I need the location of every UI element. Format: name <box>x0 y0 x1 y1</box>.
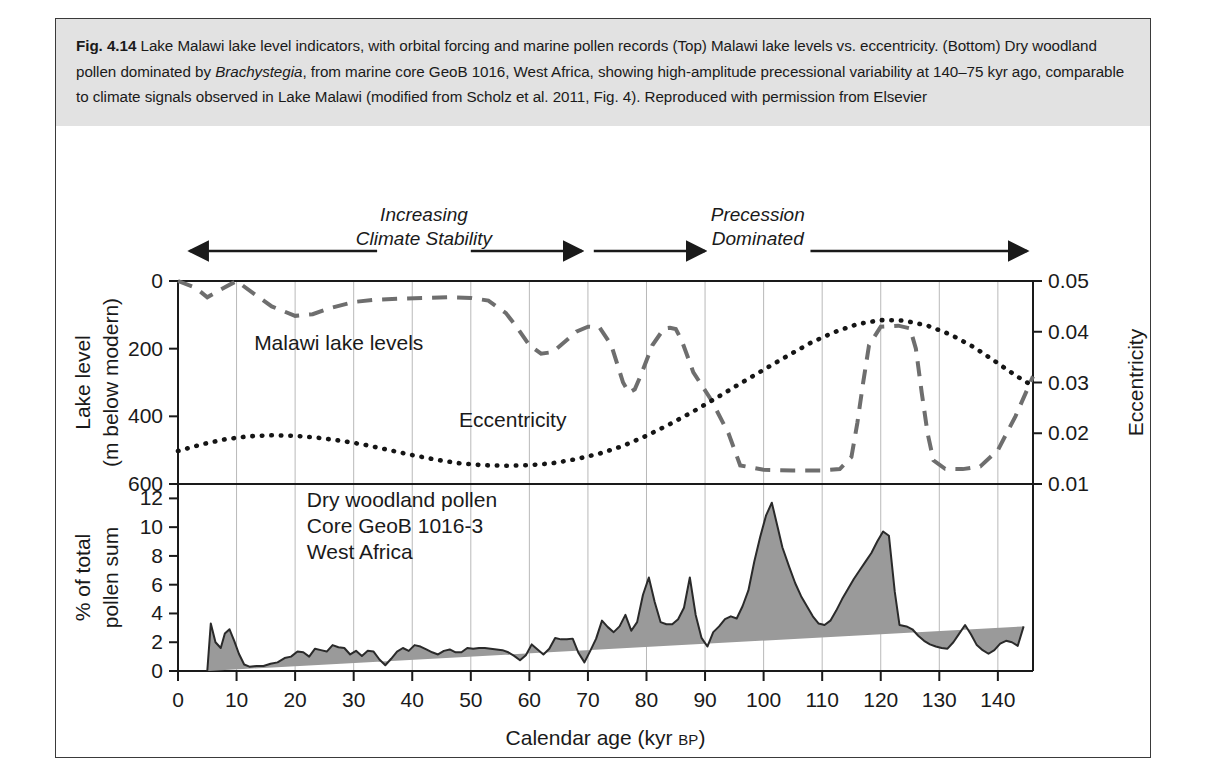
combined-chart-svg: 02004006000.050.040.030.020.010246810120… <box>56 165 1152 757</box>
series-malawi-lake-levels <box>178 281 1033 470</box>
series-label-eccentricity: Eccentricity <box>459 408 567 431</box>
annotation-label-precession: Precession <box>711 204 805 225</box>
tick-label-lakelevel-200: 200 <box>128 337 163 360</box>
tick-label-eccentricity-0.04: 0.04 <box>1048 320 1089 343</box>
caption-species-name: Brachystegia <box>215 63 302 80</box>
figure-number: Fig. 4.14 <box>76 37 136 54</box>
series-label-malawi-lake-levels: Malawi lake levels <box>254 331 423 354</box>
figure-plot-area: 02004006000.050.040.030.020.010246810120… <box>56 165 1150 757</box>
figure-caption-text: Fig. 4.14 Lake Malawi lake level indicat… <box>76 33 1130 110</box>
axis-title-calendar-age: Calendar age (kyr BP) <box>506 726 706 749</box>
tick-label-x-10: 10 <box>225 688 248 711</box>
figure-frame: Fig. 4.14 Lake Malawi lake level indicat… <box>55 18 1151 758</box>
series-label-pollen-line1: Dry woodland pollen <box>307 488 497 511</box>
tick-label-pollen-8: 8 <box>151 544 163 567</box>
axis-title-lake-level-line1: Lake level <box>71 335 94 430</box>
tick-label-lakelevel-0: 0 <box>151 269 163 292</box>
series-label-pollen-line2: Core GeoB 1016-3 <box>307 514 483 537</box>
tick-label-eccentricity-0.01: 0.01 <box>1048 472 1089 495</box>
tick-label-pollen-6: 6 <box>151 573 163 596</box>
axis-title-pollen-line1: % of total <box>71 534 94 622</box>
tick-label-pollen-2: 2 <box>151 630 163 653</box>
tick-label-x-110: 110 <box>805 688 838 711</box>
tick-label-pollen-12: 12 <box>140 486 163 509</box>
tick-label-pollen-4: 4 <box>151 601 163 624</box>
axis-title-lake-level-line2: (m below modern) <box>99 298 122 467</box>
tick-label-pollen-0: 0 <box>151 659 163 682</box>
tick-label-eccentricity-0.02: 0.02 <box>1048 421 1089 444</box>
annotation-label-dominated: Dominated <box>712 228 805 249</box>
axis-title-eccentricity: Eccentricity <box>1124 328 1147 436</box>
tick-label-x-70: 70 <box>576 688 599 711</box>
tick-label-x-130: 130 <box>922 688 957 711</box>
tick-label-x-60: 60 <box>518 688 541 711</box>
annotation-label-climate-stability: Climate Stability <box>356 228 494 249</box>
tick-label-eccentricity-0.05: 0.05 <box>1048 269 1089 292</box>
axis-title-pollen-line2: pollen sum <box>99 527 122 629</box>
tick-label-x-30: 30 <box>342 688 365 711</box>
tick-label-x-80: 80 <box>635 688 658 711</box>
figure-caption-band: Fig. 4.14 Lake Malawi lake level indicat… <box>56 19 1150 126</box>
tick-label-x-20: 20 <box>283 688 306 711</box>
annotation-label-increasing: Increasing <box>380 204 468 225</box>
tick-label-x-140: 140 <box>980 688 1015 711</box>
series-label-pollen-line3: West Africa <box>307 540 413 563</box>
tick-label-x-120: 120 <box>863 688 898 711</box>
tick-label-eccentricity-0.03: 0.03 <box>1048 371 1089 394</box>
tick-label-pollen-10: 10 <box>140 515 163 538</box>
tick-label-lakelevel-400: 400 <box>128 404 163 427</box>
tick-label-x-90: 90 <box>693 688 716 711</box>
tick-label-x-40: 40 <box>401 688 424 711</box>
tick-label-x-0: 0 <box>172 688 184 711</box>
tick-label-x-100: 100 <box>746 688 781 711</box>
tick-label-x-50: 50 <box>459 688 482 711</box>
